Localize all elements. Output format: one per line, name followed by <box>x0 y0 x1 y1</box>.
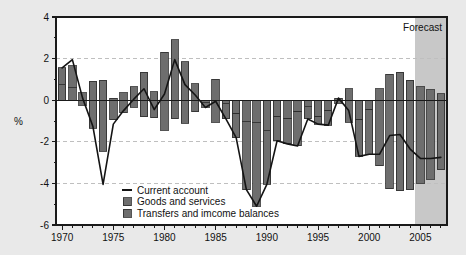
bar-goods-and-services-1985 <box>212 79 219 100</box>
x-tick-label-1970: 1970 <box>51 232 74 243</box>
bar-transfers-and-income-balances-1974 <box>99 100 106 151</box>
bar-goods-and-services-1970 <box>58 85 65 101</box>
bar-transfers-and-income-balances-2002 <box>386 100 393 188</box>
y-tick-label--4: -4 <box>40 178 49 189</box>
bar-goods-and-services-1978 <box>140 72 147 100</box>
bar-goods-and-services-1991 <box>273 100 280 117</box>
bar-goods-and-services-1999 <box>355 100 362 120</box>
bar-goods-and-services-2006 <box>427 90 434 100</box>
bar-transfers-and-income-balances-2007 <box>437 100 444 170</box>
y-axis-title: % <box>14 116 23 127</box>
bar-transfers-and-income-balances-2005 <box>417 100 424 183</box>
bar-goods-and-services-1998 <box>345 89 352 100</box>
bar-transfers-and-income-balances-1999 <box>355 120 362 156</box>
bar-goods-and-services-1974 <box>99 80 106 100</box>
y-axis-title: % <box>14 116 23 127</box>
bar-goods-and-services-1976 <box>120 93 127 100</box>
bar-transfers-and-income-balances-1986 <box>222 103 229 119</box>
bar-goods-and-services-1988 <box>243 100 250 121</box>
bar-goods-and-services-1971 <box>69 88 76 100</box>
bar-transfers-and-income-balances-1975 <box>110 100 117 120</box>
bar-goods-and-services-1993 <box>294 100 301 111</box>
bar-goods-and-services-2005 <box>417 87 424 101</box>
bar-transfers-and-income-balances-1982 <box>181 100 188 123</box>
bar-transfers-and-income-balances-1983 <box>192 100 199 111</box>
bar-transfers-and-income-balances-2000 <box>366 110 373 155</box>
y-tick-label-0: 0 <box>43 95 49 106</box>
bar-goods-and-services-1990 <box>263 100 270 130</box>
x-tick-label-1975: 1975 <box>102 232 125 243</box>
y-tick-label-4: 4 <box>43 12 49 23</box>
forecast-annotation-label: Forecast <box>403 22 442 33</box>
legend-label-0: Current account <box>137 185 208 196</box>
bar-transfers-and-income-balances-1991 <box>273 117 280 141</box>
bar-transfers-and-income-balances-1992 <box>284 119 291 144</box>
bar-goods-and-services-2000 <box>366 100 373 109</box>
forecast-label: Forecast <box>403 22 442 33</box>
x-tick-label-2000: 2000 <box>358 232 381 243</box>
bar-goods-and-services-1982 <box>181 62 188 100</box>
bar-transfers-and-income-balances-1994 <box>304 106 311 118</box>
bar-goods-and-services-2007 <box>437 94 444 100</box>
bar-goods-and-services-2003 <box>396 72 403 100</box>
y-tick-label--6: -6 <box>40 220 49 231</box>
bar-transfers-and-income-balances-1970 <box>58 68 65 85</box>
x-tick-label-1985: 1985 <box>205 232 228 243</box>
x-tick-label-2005: 2005 <box>409 232 432 243</box>
x-tick-label-1980: 1980 <box>153 232 176 243</box>
bar-transfers-and-income-balances-1989 <box>253 122 260 206</box>
legend-label-2: Transfers and imcome balances <box>137 208 279 219</box>
bar-goods-and-services-1987 <box>232 100 239 114</box>
bar-transfers-and-income-balances-1980 <box>161 100 168 130</box>
bar-transfers-and-income-balances-1978 <box>140 100 147 117</box>
bar-transfers-and-income-balances-2003 <box>396 100 403 190</box>
bar-transfers-and-income-balances-1981 <box>171 100 178 119</box>
legend-marker-swatch-1 <box>123 198 131 206</box>
economic-balance-chart: 420-2-4-6 197019751980198519901995200020… <box>0 0 466 255</box>
bar-goods-and-services-2002 <box>386 74 393 100</box>
y-tick-label-2: 2 <box>43 53 49 64</box>
bar-goods-and-services-1994 <box>304 100 311 106</box>
bar-transfers-and-income-balances-2006 <box>427 100 434 179</box>
bar-goods-and-services-1992 <box>284 100 291 119</box>
bar-goods-and-services-1996 <box>325 100 332 110</box>
bar-goods-and-services-1995 <box>314 100 321 117</box>
bar-goods-and-services-2001 <box>376 89 383 100</box>
bar-goods-and-services-1973 <box>89 81 96 100</box>
bar-goods-and-services-1989 <box>253 100 260 122</box>
legend-label-1: Goods and services <box>137 196 225 207</box>
chart-container: 420-2-4-6 197019751980198519901995200020… <box>0 0 466 255</box>
bar-goods-and-services-2004 <box>406 80 413 100</box>
bar-goods-and-services-1979 <box>151 92 158 100</box>
legend-marker-swatch-2 <box>123 209 131 217</box>
bar-transfers-and-income-balances-2001 <box>376 100 383 166</box>
y-tick-label--2: -2 <box>40 136 49 147</box>
x-tick-label-1995: 1995 <box>307 232 330 243</box>
x-tick-label-1990: 1990 <box>256 232 279 243</box>
